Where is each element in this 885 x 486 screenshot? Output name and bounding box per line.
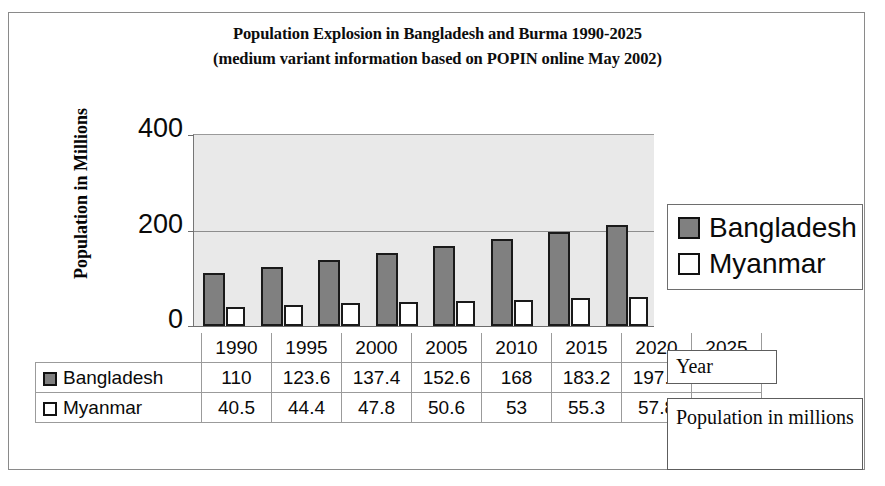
bar [456, 301, 475, 326]
table-row-label: Myanmar [36, 393, 202, 423]
table-swatch-icon [43, 402, 57, 416]
bar [571, 298, 590, 326]
bar [606, 225, 628, 326]
table-cell: 53 [482, 393, 552, 423]
legend-label: Bangladesh [709, 210, 857, 246]
table-cell: 183.2 [552, 363, 622, 393]
table-row-label: Bangladesh [36, 363, 202, 393]
table-cell: 44.4 [272, 393, 342, 423]
bar [341, 303, 360, 326]
y-axis-tick-label: 0 [105, 306, 183, 333]
table-cell: 152.6 [412, 363, 482, 393]
table-column-header: 1995 [272, 333, 342, 363]
table-column-header: 2010 [482, 333, 552, 363]
table-cell: 40.5 [202, 393, 272, 423]
legend-swatch-icon [678, 253, 700, 275]
bar [629, 297, 648, 326]
bar-group [597, 135, 655, 326]
table-row: Bangladesh110123.6137.4152.6168183.2197.… [36, 363, 762, 393]
y-axis-tick-label: 200 [105, 211, 183, 238]
table-column-header: 2000 [342, 333, 412, 363]
bar-group [367, 135, 425, 326]
bar [376, 253, 398, 326]
y-axis-tick-label: 400 [105, 115, 183, 142]
table-header-row: 19901995200020052010201520202025 [36, 333, 762, 363]
bar [399, 302, 418, 326]
legend-item: Myanmar [678, 246, 862, 282]
bar-group [309, 135, 367, 326]
table-corner-cell [36, 333, 202, 363]
bar [548, 232, 570, 326]
table-column-header: 2015 [552, 333, 622, 363]
x-axis-line [188, 326, 654, 327]
legend-label: Myanmar [709, 246, 826, 282]
bar-group [194, 135, 252, 326]
chart-frame: Population Explosion in Bangladesh and B… [8, 12, 865, 470]
plot-inner [194, 135, 654, 326]
data-table: 19901995200020052010201520202025Banglade… [35, 333, 762, 423]
bar [226, 307, 245, 326]
population-callout: Population in millions [667, 398, 863, 470]
table-column-header: 2005 [412, 333, 482, 363]
bar-group [482, 135, 540, 326]
bar-group [424, 135, 482, 326]
table-cell: 168 [482, 363, 552, 393]
table-column-header: 1990 [202, 333, 272, 363]
bar-group [539, 135, 597, 326]
bar [203, 273, 225, 326]
bar [514, 300, 533, 326]
table-cell: 55.3 [552, 393, 622, 423]
legend: BangladeshMyanmar [667, 204, 863, 290]
bar [491, 239, 513, 326]
table-cell: 50.6 [412, 393, 482, 423]
bar [433, 246, 455, 326]
table-row: Myanmar40.544.447.850.65355.357.860.2 [36, 393, 762, 423]
table-cell: 47.8 [342, 393, 412, 423]
plot-area [193, 134, 654, 326]
legend-swatch-icon [678, 217, 700, 239]
table-cell: 137.4 [342, 363, 412, 393]
legend-item: Bangladesh [678, 210, 862, 246]
table-cell: 110 [202, 363, 272, 393]
table-swatch-icon [43, 372, 57, 386]
bar [261, 267, 283, 326]
bar [284, 305, 303, 326]
bar [318, 260, 340, 326]
bar-group [252, 135, 310, 326]
year-callout: Year [667, 350, 777, 384]
y-axis-title: Population in Millions [71, 84, 92, 304]
table-cell: 123.6 [272, 363, 342, 393]
